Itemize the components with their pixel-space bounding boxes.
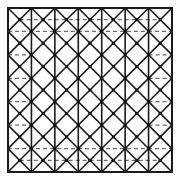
lattice-node xyxy=(30,77,33,80)
lattice-node xyxy=(100,124,103,127)
lattice-node xyxy=(65,42,68,45)
lattice-node xyxy=(88,42,91,45)
lattice-node xyxy=(124,53,127,56)
lattice-node xyxy=(77,100,80,103)
lattice-node xyxy=(42,65,45,68)
lattice-node xyxy=(77,124,80,127)
lattice-node xyxy=(65,88,68,91)
lattice-node xyxy=(100,100,103,103)
lattice-node xyxy=(88,112,91,115)
lattice-node xyxy=(124,124,127,127)
lattice-node xyxy=(88,65,91,68)
lattice-node xyxy=(42,18,45,21)
lattice-node xyxy=(112,65,115,68)
lattice-node xyxy=(124,147,127,150)
lattice-node xyxy=(18,159,21,162)
lattice-node xyxy=(18,18,21,21)
lattice-node xyxy=(88,18,91,21)
lattice-node xyxy=(30,147,33,150)
lattice-node xyxy=(159,42,162,45)
lattice-node xyxy=(42,112,45,115)
lattice-node xyxy=(88,135,91,138)
lattice-node xyxy=(135,42,138,45)
lattice-node xyxy=(112,42,115,45)
lattice-node xyxy=(65,159,68,162)
lattice-node xyxy=(88,88,91,91)
lattice-node xyxy=(30,53,33,56)
lattice-node xyxy=(135,18,138,21)
lattice-node xyxy=(100,30,103,33)
lattice-node xyxy=(112,88,115,91)
lattice-node xyxy=(124,30,127,33)
lattice-node xyxy=(135,135,138,138)
lattice-node xyxy=(159,159,162,162)
lattice-node xyxy=(147,77,150,80)
lattice-node xyxy=(65,65,68,68)
lattice-node xyxy=(100,77,103,80)
lattice-node xyxy=(88,159,91,162)
lattice-node xyxy=(53,53,56,56)
lattice-node xyxy=(18,112,21,115)
lattice-node xyxy=(18,135,21,138)
lattice-node xyxy=(18,88,21,91)
lattice-node xyxy=(42,88,45,91)
lattice-diagram xyxy=(0,0,178,189)
lattice-node xyxy=(77,53,80,56)
lattice-node xyxy=(18,65,21,68)
lattice-node xyxy=(159,135,162,138)
lattice-node xyxy=(135,112,138,115)
lattice-node xyxy=(65,112,68,115)
lattice-node xyxy=(159,88,162,91)
lattice-node xyxy=(100,53,103,56)
lattice-node xyxy=(159,65,162,68)
lattice-node xyxy=(53,30,56,33)
lattice-node xyxy=(42,159,45,162)
lattice-node xyxy=(30,30,33,33)
lattice-node xyxy=(65,18,68,21)
lattice-node xyxy=(65,135,68,138)
lattice-node xyxy=(159,18,162,21)
lattice-node xyxy=(112,135,115,138)
lattice-node xyxy=(147,124,150,127)
lattice-node xyxy=(53,77,56,80)
lattice-node xyxy=(30,124,33,127)
lattice-node xyxy=(135,88,138,91)
lattice-node xyxy=(42,135,45,138)
lattice-node xyxy=(147,30,150,33)
lattice-node xyxy=(112,18,115,21)
lattice-node xyxy=(159,112,162,115)
lattice-node xyxy=(77,77,80,80)
lattice-node xyxy=(100,147,103,150)
lattice-node xyxy=(124,77,127,80)
lattice-node xyxy=(53,124,56,127)
lattice-node xyxy=(77,147,80,150)
lattice-node xyxy=(112,159,115,162)
lattice-node xyxy=(42,42,45,45)
lattice-node xyxy=(147,147,150,150)
lattice-node xyxy=(147,53,150,56)
lattice-node xyxy=(135,65,138,68)
lattice-node xyxy=(124,100,127,103)
lattice-node xyxy=(112,112,115,115)
lattice-node xyxy=(135,159,138,162)
lattice-node xyxy=(30,100,33,103)
lattice-node xyxy=(77,30,80,33)
lattice-node xyxy=(53,147,56,150)
lattice-node xyxy=(18,42,21,45)
lattice-node xyxy=(53,100,56,103)
lattice-node xyxy=(147,100,150,103)
